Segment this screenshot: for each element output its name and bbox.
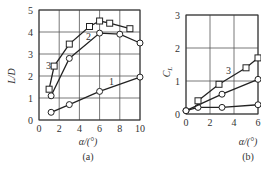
data-point-circle: [97, 30, 103, 36]
curve-label-1-a: 1: [109, 76, 114, 87]
data-point-square: [195, 98, 201, 104]
data-point-circle: [219, 104, 225, 110]
x-tick-label: 8: [117, 123, 122, 134]
data-point-circle: [255, 102, 261, 108]
x-tick-label: 2: [208, 117, 213, 128]
caption-b: (b): [242, 151, 254, 163]
x-tick-label: 2: [57, 123, 62, 134]
curve-label-2-a: 2: [86, 31, 91, 42]
y-axis-label-a: L/D: [6, 67, 17, 84]
data-point-square: [255, 55, 261, 61]
data-point-square: [107, 20, 113, 26]
x-tick-label: 10: [135, 123, 145, 134]
y-tick-label: 2: [28, 71, 33, 82]
data-point-square: [87, 24, 93, 30]
y-tick-label: 1: [28, 93, 33, 104]
x-tick-label: 6: [97, 123, 102, 134]
data-point-square: [243, 65, 249, 71]
data-point-square: [51, 63, 57, 69]
data-point-circle: [183, 108, 189, 114]
series-line-1: [51, 77, 140, 112]
y-tick-label: 2: [175, 43, 180, 54]
x-tick-label: 0: [184, 117, 189, 128]
data-point-circle: [97, 88, 103, 94]
data-point-circle: [137, 40, 143, 46]
data-point-circle: [117, 31, 123, 37]
y-axis-label-b: CL: [161, 67, 174, 78]
curve-label-3-b: 3: [226, 65, 231, 76]
x-tick-label: 0: [37, 123, 42, 134]
y-tick-label: 0: [175, 109, 180, 120]
y-tick-label: 0: [28, 115, 33, 126]
y-tick-label: 3: [28, 49, 33, 60]
x-tick-label: 4: [232, 117, 237, 128]
y-tick-label: 4: [28, 27, 33, 38]
chart-panel-b: 02460123: [175, 10, 261, 129]
data-point-square: [97, 18, 103, 24]
data-point-circle: [66, 102, 72, 108]
y-tick-label: 3: [175, 10, 180, 21]
x-axis-label-a: α/(°): [79, 136, 98, 148]
x-axis-label-b: α/(°): [239, 136, 258, 148]
data-point-circle: [48, 109, 54, 115]
data-point-circle: [255, 76, 261, 82]
data-point-square: [216, 81, 222, 87]
y-tick-label: 5: [28, 5, 33, 16]
series-line-2: [51, 33, 140, 96]
data-point-square: [127, 26, 133, 32]
data-point-circle: [137, 74, 143, 80]
x-tick-label: 6: [256, 117, 261, 128]
curve-label-3-a: 3: [46, 60, 51, 71]
y-tick-label: 1: [175, 76, 180, 87]
data-point-square: [66, 41, 72, 47]
caption-a: (a): [82, 151, 93, 163]
data-point-circle: [48, 93, 54, 99]
data-point-circle: [219, 91, 225, 97]
figure: 0246810012345 02460123 L/D α/(°) (a) 3 2…: [0, 0, 261, 177]
x-tick-label: 4: [77, 123, 82, 134]
data-point-circle: [66, 55, 72, 61]
data-point-square: [46, 86, 52, 92]
